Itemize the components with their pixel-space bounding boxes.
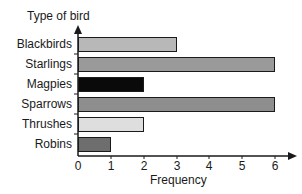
bar-starlings bbox=[78, 57, 275, 72]
x-tick-label-2: 2 bbox=[137, 159, 151, 173]
category-label-sparrows: Sparrows bbox=[21, 97, 72, 111]
x-tick-label-0: 0 bbox=[71, 159, 85, 173]
y-axis-title: Type of bird bbox=[27, 9, 90, 23]
category-label-magpies: Magpies bbox=[27, 77, 72, 91]
category-label-robins: Robins bbox=[35, 137, 72, 151]
x-tick-label-5: 5 bbox=[235, 159, 249, 173]
category-label-starlings: Starlings bbox=[25, 57, 72, 71]
bar-blackbirds bbox=[78, 37, 177, 52]
x-tick-label-6: 6 bbox=[268, 159, 282, 173]
category-label-blackbirds: Blackbirds bbox=[17, 37, 72, 51]
bar-sparrows bbox=[78, 97, 275, 112]
bar-robins bbox=[78, 137, 111, 152]
x-tick-label-4: 4 bbox=[202, 159, 216, 173]
bar-thrushes bbox=[78, 117, 144, 132]
category-label-thrushes: Thrushes bbox=[22, 117, 72, 131]
bar-magpies bbox=[78, 77, 144, 92]
x-axis-title: Frequency bbox=[150, 173, 207, 187]
x-tick-label-1: 1 bbox=[104, 159, 118, 173]
x-tick-label-3: 3 bbox=[170, 159, 184, 173]
